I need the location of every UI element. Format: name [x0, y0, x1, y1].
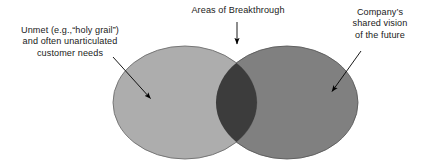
- left-set-label-line-3: customer needs: [8, 48, 132, 59]
- left-set-label-line-2: and often unarticulated: [8, 36, 132, 47]
- left-set-label: Unmet (e.g.,“holy grail”) and often unar…: [8, 25, 132, 59]
- intersection-label-line-1: Areas of Breakthrough: [172, 5, 304, 16]
- left-set-label-line-1: Unmet (e.g.,“holy grail”): [8, 25, 132, 36]
- venn-diagram-figure: Unmet (e.g.,“holy grail”) and often unar…: [0, 0, 425, 167]
- intersection-label: Areas of Breakthrough: [172, 5, 304, 16]
- right-set-label-line-2: shared vision: [338, 18, 422, 29]
- right-set-label-line-1: Company’s: [338, 7, 422, 18]
- right-set-label-line-3: of the future: [338, 30, 422, 41]
- right-set-label: Company’s shared vision of the future: [338, 7, 422, 41]
